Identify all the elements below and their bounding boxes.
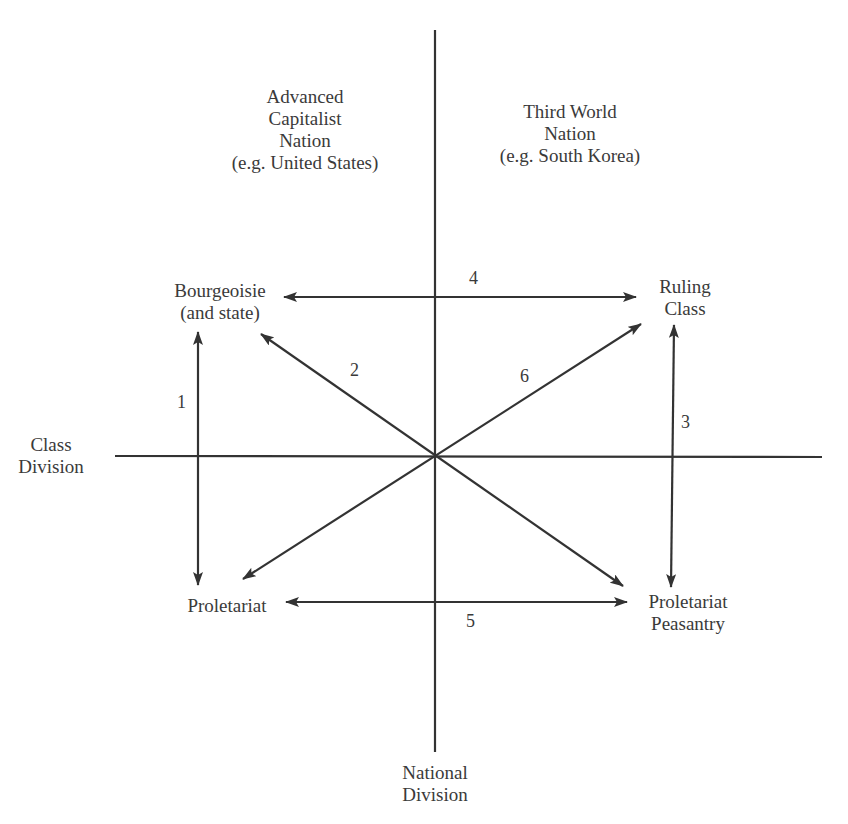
node-line: Peasantry <box>633 613 743 635</box>
node-line: Proletariat <box>633 591 743 613</box>
relation-number-2: 2 <box>350 360 359 380</box>
axis-label-national-division: National Division <box>385 762 485 806</box>
header-line: Nation <box>470 123 670 145</box>
axis-label-line: Class <box>6 434 96 456</box>
horizontal-axis-class-division <box>115 456 822 457</box>
relation-number-1: 1 <box>177 392 186 412</box>
node-line: Ruling <box>645 276 725 298</box>
header-line: Advanced <box>205 86 405 108</box>
arrow-relation-2 <box>261 334 623 586</box>
relation-number-6: 6 <box>520 366 529 386</box>
node-line: Class <box>645 298 725 320</box>
node-bourgeoisie: Bourgeoisie (and state) <box>160 280 280 324</box>
header-advanced-capitalist-nation: Advanced Capitalist Nation (e.g. United … <box>205 86 405 174</box>
header-line: Third World <box>470 101 670 123</box>
diagram-canvas <box>0 0 848 824</box>
node-proletariat-peasantry: Proletariat Peasantry <box>633 591 743 635</box>
arrow-relation-3 <box>671 325 674 587</box>
axis-label-line: Division <box>385 784 485 806</box>
header-line: Capitalist <box>205 108 405 130</box>
axis-label-line: National <box>385 762 485 784</box>
axis-label-line: Division <box>6 456 96 478</box>
relation-number-3: 3 <box>681 412 690 432</box>
header-line: (e.g. South Korea) <box>470 145 670 167</box>
node-line: Proletariat <box>172 595 282 617</box>
node-line: Bourgeoisie <box>160 280 280 302</box>
relation-number-4: 4 <box>469 268 478 288</box>
axis-label-class-division: Class Division <box>6 434 96 478</box>
node-proletariat: Proletariat <box>172 595 282 617</box>
node-line: (and state) <box>160 302 280 324</box>
header-line: Nation <box>205 130 405 152</box>
relation-number-5: 5 <box>466 611 475 631</box>
header-third-world-nation: Third World Nation (e.g. South Korea) <box>470 101 670 167</box>
header-line: (e.g. United States) <box>205 152 405 174</box>
node-ruling-class: Ruling Class <box>645 276 725 320</box>
